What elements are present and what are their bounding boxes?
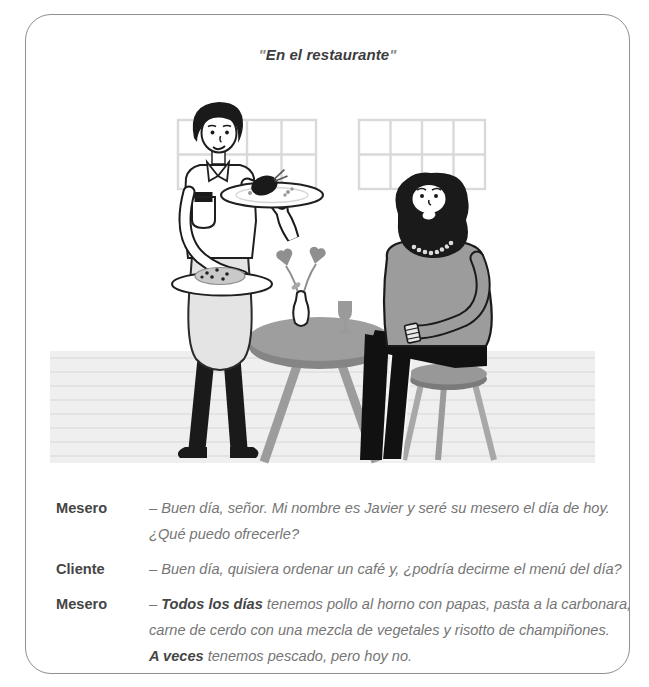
dialogue-row: Mesero– Todos los días tenemos pollo al … — [56, 591, 613, 669]
speaker-label: Mesero — [56, 495, 149, 547]
speaker-label: Cliente — [56, 556, 149, 582]
dialogue-line: – Buen día, quisiera ordenar un café y, … — [149, 556, 622, 582]
dialogue-row: Mesero– Buen día, señor. Mi nombre es Ja… — [56, 495, 613, 547]
dialogue-card: "En el restaurante" — [25, 14, 630, 674]
page: { "title": { "open_quote": "\"", "text":… — [0, 0, 649, 687]
title-text: En el restaurante — [266, 46, 389, 63]
dialogue-line: carne de cerdo con una mezcla de vegetal… — [149, 617, 631, 643]
dialogue-line: – Todos los días tenemos pollo al horno … — [149, 591, 631, 617]
dialogue-row: Cliente– Buen día, quisiera ordenar un c… — [56, 556, 613, 582]
vase-with-flowers-icon — [275, 246, 326, 326]
restaurant-illustration — [35, 96, 615, 476]
speaker-lines: – Todos los días tenemos pollo al horno … — [149, 591, 631, 669]
dialogue-line: A veces tenemos pescado, pero hoy no. — [149, 643, 631, 669]
dialogue-line: – Buen día, señor. Mi nombre es Javier y… — [149, 495, 610, 521]
speaker-lines: – Buen día, señor. Mi nombre es Javier y… — [149, 495, 610, 547]
plate-with-pasta — [172, 268, 272, 296]
open-quote: " — [259, 46, 266, 63]
speaker-label: Mesero — [56, 591, 149, 669]
page-title: "En el restaurante" — [26, 46, 629, 63]
dialogue: Mesero– Buen día, señor. Mi nombre es Ja… — [56, 495, 613, 678]
ribbed-cuff — [404, 323, 420, 343]
speaker-lines: – Buen día, quisiera ordenar un café y, … — [149, 556, 622, 582]
dialogue-line: ¿Qué puedo ofrecerle? — [149, 521, 610, 547]
close-quote: " — [389, 46, 396, 63]
